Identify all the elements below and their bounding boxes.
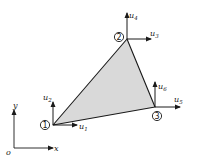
dof-label-u6: u6	[158, 82, 167, 92]
node-3: 3	[152, 111, 161, 121]
origin-label: o	[6, 148, 11, 157]
global-axes: y x o	[6, 101, 59, 157]
node-1-label: 1	[42, 121, 47, 130]
node-2: 2	[114, 32, 123, 42]
triangular-element-diagram: 1 2 3 u1 u2 u3 u4 u5 u6 y x o	[0, 0, 197, 159]
dof-label-u5: u5	[174, 95, 183, 105]
triangle-element	[53, 39, 155, 125]
node-3-label: 3	[154, 112, 159, 121]
node-2-label: 2	[116, 33, 121, 42]
dof-label-u4: u4	[129, 11, 138, 21]
node-1: 1	[40, 120, 49, 130]
dof-label-u2: u2	[43, 93, 52, 103]
dof-label-u1: u1	[79, 122, 88, 132]
dof-label-u3: u3	[150, 29, 159, 39]
x-axis-label: x	[54, 144, 59, 153]
y-axis-label: y	[12, 101, 18, 110]
